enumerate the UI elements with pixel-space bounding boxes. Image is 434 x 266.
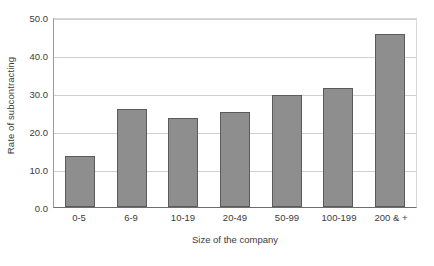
bar[interactable] (117, 109, 147, 207)
y-axis-title: Rate of subcontracting (0, 0, 22, 210)
bar-slot (313, 19, 365, 207)
x-axis-tick-label: 0-5 (53, 212, 105, 223)
bar-chart: Rate of subcontracting 50.040.030.020.01… (0, 0, 434, 266)
bar[interactable] (375, 34, 405, 207)
y-axis-tick-labels: 50.040.030.020.010.00.0 (22, 0, 52, 216)
bar-slot (261, 19, 313, 207)
bars-layer (54, 19, 416, 207)
bar-slot (157, 19, 209, 207)
x-axis-tick-label: 100-199 (313, 212, 365, 223)
x-axis-tick-label: 10-19 (157, 212, 209, 223)
y-axis-tick-label: 30.0 (30, 89, 49, 100)
x-axis-tick-label: 6-9 (105, 212, 157, 223)
bar[interactable] (272, 95, 302, 207)
y-axis-tick-label: 0.0 (35, 203, 48, 214)
bar-slot (106, 19, 158, 207)
bar-slot (209, 19, 261, 207)
x-axis-tick-labels: 0-56-910-1920-4950-99100-199200 & + (53, 212, 417, 223)
x-axis-tick-label: 200 & + (365, 212, 417, 223)
x-axis-tick-label: 20-49 (209, 212, 261, 223)
bar-slot (364, 19, 416, 207)
bar[interactable] (220, 112, 250, 207)
y-axis-title-label: Rate of subcontracting (6, 56, 17, 153)
y-axis-tick-label: 20.0 (30, 127, 49, 138)
bar-slot (54, 19, 106, 207)
bar[interactable] (323, 88, 353, 207)
y-axis-tick-label: 50.0 (30, 13, 49, 24)
y-axis-tick-label: 40.0 (30, 51, 49, 62)
x-axis-tick-label: 50-99 (261, 212, 313, 223)
plot-area (53, 18, 417, 208)
y-axis-tick-label: 10.0 (30, 165, 49, 176)
bar[interactable] (65, 156, 95, 207)
bar[interactable] (168, 118, 198, 207)
x-axis-title: Size of the company (53, 234, 417, 245)
